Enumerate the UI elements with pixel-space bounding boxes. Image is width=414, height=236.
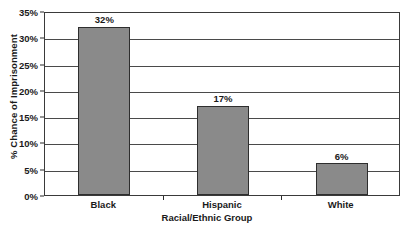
bar-slot-hispanic: 17% xyxy=(164,13,283,195)
x-cat-label-white: White xyxy=(328,199,354,210)
y-tick-label-10: 10% xyxy=(0,138,38,149)
bar-slot-black: 32% xyxy=(45,13,164,195)
bar-value-white: 6% xyxy=(335,151,349,162)
bar-black[interactable] xyxy=(78,27,130,195)
y-tick-label-15: 15% xyxy=(0,112,38,123)
bar-value-hispanic: 17% xyxy=(214,93,233,104)
x-axis-title: Racial/Ethnic Group xyxy=(0,212,414,223)
y-tick-label-35: 35% xyxy=(0,7,38,18)
x-tick-mark-1 xyxy=(163,196,164,200)
bar-white[interactable] xyxy=(316,163,368,195)
x-cat-label-black: Black xyxy=(91,199,116,210)
x-tick-mark-2 xyxy=(281,196,282,200)
y-axis-ticks: 35% 30% 25% 20% 15% 10% 5% 0% xyxy=(0,0,40,236)
bar-chart: % Chance of Imprisonment 35% 30% 25% 20%… xyxy=(0,0,414,236)
bars-layer: 32% 17% 6% xyxy=(45,13,399,195)
bar-value-black: 32% xyxy=(95,14,114,25)
y-tick-label-25: 25% xyxy=(0,59,38,70)
y-tick-label-5: 5% xyxy=(0,164,38,175)
y-tick-label-20: 20% xyxy=(0,85,38,96)
x-cat-label-hispanic: Hispanic xyxy=(202,199,242,210)
y-tick-label-0: 0% xyxy=(0,191,38,202)
y-tick-label-30: 30% xyxy=(0,33,38,44)
bar-slot-white: 6% xyxy=(282,13,401,195)
plot-area: 32% 17% 6% xyxy=(44,12,400,196)
bar-hispanic[interactable] xyxy=(197,106,249,195)
